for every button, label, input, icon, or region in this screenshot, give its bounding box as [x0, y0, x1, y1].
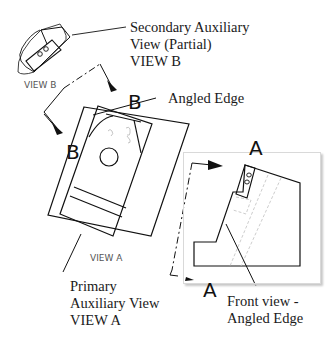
leader-primary: [63, 234, 81, 272]
callout-primary-auxiliary: Primary Auxiliary View VIEW A: [70, 278, 159, 329]
cutting-plane-b: [44, 64, 111, 130]
arrow-b-top: [107, 80, 117, 92]
secondary-auxiliary-view: [18, 24, 70, 74]
callout-front-view: Front view - Angled Edge: [227, 293, 303, 327]
section-letter-a-top: A: [249, 138, 263, 158]
front-view-frame: [183, 152, 321, 284]
section-letter-b-top: B: [128, 92, 142, 112]
primary-part-outline: [60, 98, 156, 236]
section-letter-b-left: B: [66, 142, 80, 162]
callout-secondary-auxiliary: Secondary Auxiliary View (Partial) VIEW …: [130, 19, 250, 70]
primary-auxiliary-view: [48, 107, 189, 236]
leader-secondary: [72, 27, 126, 35]
callout-angled-edge: Angled Edge: [168, 90, 244, 107]
arrow-b-left: [52, 123, 63, 135]
view-label-a: VIEW A: [90, 253, 122, 263]
primary-hidden-detail: [108, 127, 130, 143]
view-label-b: VIEW B: [24, 80, 56, 90]
section-letter-a-bottom: A: [203, 280, 217, 300]
